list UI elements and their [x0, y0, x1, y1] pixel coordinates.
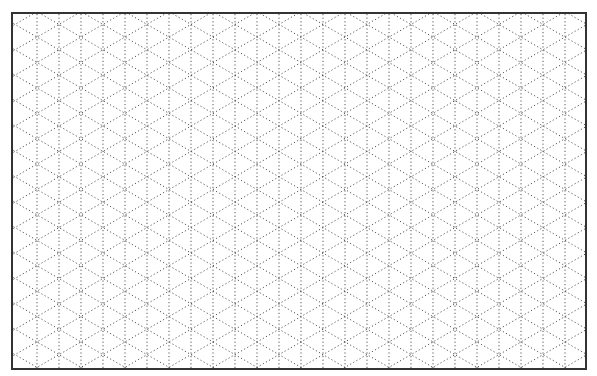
isometric-grid-sheet — [11, 12, 587, 370]
isometric-grid — [13, 14, 587, 370]
